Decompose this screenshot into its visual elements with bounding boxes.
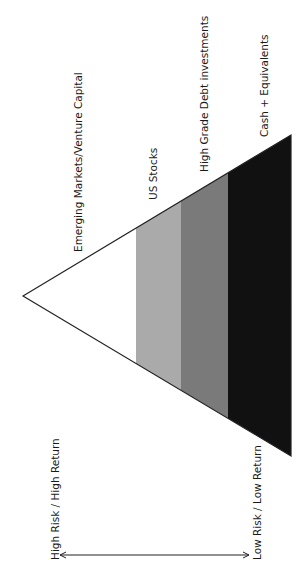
- label-low-risk-low-return: Low Risk / Low Return: [251, 445, 263, 560]
- label-us-stocks: US Stocks: [147, 148, 159, 200]
- tier-emerging-markets: [0, 0, 136, 585]
- risk-pyramid-diagram: Emerging Markets/Venture Capital US Stoc…: [0, 0, 304, 585]
- label-high-grade-debt: High Grade Debt investments: [198, 16, 210, 172]
- label-emerging-markets: Emerging Markets/Venture Capital: [72, 72, 84, 252]
- tier-us-stocks: [136, 0, 181, 585]
- label-cash-equivalents: Cash + Equivalents: [258, 34, 270, 137]
- label-high-risk-high-return: High Risk / High Return: [49, 438, 61, 560]
